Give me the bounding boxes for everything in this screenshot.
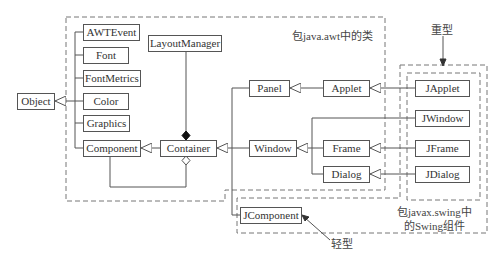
class-component: Component: [83, 140, 141, 157]
class-layoutmanager: LayoutManager: [148, 35, 222, 52]
class-awtevent: AWTEvent: [83, 24, 140, 41]
lightweight-label: 轻型: [331, 238, 353, 251]
swing-package-label-line2: 的Swing组件: [404, 220, 465, 233]
class-jcomponent: JComponent: [240, 207, 302, 224]
swing-package-label-line1: 包javax.swing中: [397, 206, 472, 219]
class-jdialog: JDialog: [415, 166, 470, 183]
class-japplet: JApplet: [415, 80, 470, 97]
class-jwindow: JWindow: [415, 110, 470, 127]
class-fontmetrics: FontMetrics: [83, 70, 141, 87]
class-jframe: JFrame: [415, 140, 470, 157]
class-diagram: 包java.awt中的类 重型 包javax.swing中 的Swing组件 轻…: [0, 0, 501, 262]
class-panel: Panel: [249, 80, 290, 97]
class-font: Font: [83, 47, 129, 64]
class-graphics: Graphics: [83, 115, 130, 132]
awt-package-label: 包java.awt中的类: [292, 30, 373, 43]
class-color: Color: [83, 93, 129, 110]
class-applet: Applet: [323, 80, 370, 97]
class-object: Object: [17, 93, 55, 110]
class-container: Container: [160, 140, 217, 157]
class-dialog: Dialog: [323, 166, 370, 183]
class-window: Window: [249, 140, 297, 157]
heavyweight-label: 重型: [431, 24, 453, 37]
class-frame: Frame: [323, 140, 370, 157]
